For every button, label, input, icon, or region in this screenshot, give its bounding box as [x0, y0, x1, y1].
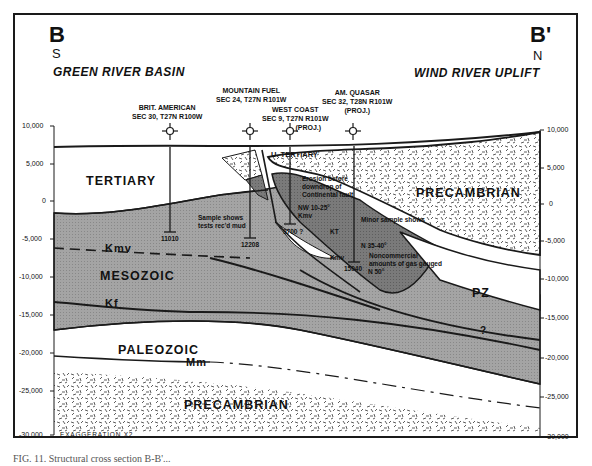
- erosion-note: Erosion before downdrop of Continental f…: [302, 175, 353, 199]
- td-mountain-fuel: 12208: [241, 241, 259, 248]
- dip-note-n50: N 50°: [368, 268, 384, 275]
- right-axis-tick: -15,000: [545, 314, 569, 321]
- right-axis-tick: -10,000: [545, 275, 569, 282]
- well-location: SEC 30, T27N R100W: [132, 112, 202, 121]
- south-direction-label: S: [52, 46, 61, 61]
- pz-label: PZ: [472, 286, 490, 300]
- well-name: AM. QUASAR: [322, 88, 392, 97]
- left-axis-tick: 10,000: [22, 122, 43, 129]
- figure-caption: FIG. 11. Structural cross section B-B'..…: [13, 453, 171, 464]
- right-axis-tick: 10,000: [547, 126, 568, 133]
- exaggeration-note: EXAGGERATION X2: [60, 431, 133, 438]
- precambrian-lower-label: PRECAMBRIAN: [184, 398, 289, 412]
- well-name: WEST COAST: [262, 105, 329, 114]
- well-note: (PROJ.): [322, 106, 392, 115]
- left-axis-tick: -10,000: [19, 273, 43, 280]
- left-axis-tick: -5,000: [22, 235, 42, 242]
- section-start-label: B: [49, 22, 65, 48]
- kmv-horizon-label: Kmv: [105, 242, 132, 254]
- right-axis-tick: -20,000: [545, 354, 569, 361]
- td-west-coast: 9700 ?: [283, 228, 303, 235]
- right-axis-tick: -30,000: [545, 433, 569, 440]
- kmv-small-label-2: Kmv: [298, 212, 312, 219]
- section-end-label: B': [530, 22, 551, 48]
- kf-horizon-label: Kf: [105, 297, 119, 309]
- left-axis-tick: -20,000: [19, 349, 43, 356]
- well-name: MOUNTAIN FUEL: [216, 86, 286, 95]
- minor-shows-note: Minor sample shows: [361, 216, 425, 223]
- left-axis-tick: -30,000: [19, 431, 43, 438]
- dip-note-nw: NW 10-25°: [298, 204, 330, 211]
- right-axis-tick: -25,000: [545, 393, 569, 400]
- td-am-quasar: 15040: [344, 265, 362, 272]
- dip-note-n35: N 35-40°: [361, 242, 387, 249]
- right-axis-tick: 0: [549, 200, 553, 207]
- well-brit-american: BRIT. AMERICAN SEC 30, T27N R100W: [132, 103, 202, 121]
- wind-river-uplift-label: WIND RIVER UPLIFT: [414, 66, 540, 80]
- green-river-basin-label: GREEN RIVER BASIN: [53, 65, 185, 79]
- tertiary-label: TERTIARY: [86, 174, 156, 188]
- mesozoic-label: MESOZOIC: [100, 269, 175, 283]
- tests-note: tests rec'd mud: [198, 222, 246, 229]
- td-brit-american: 11010: [161, 235, 179, 242]
- kt-label: KT: [330, 228, 339, 235]
- well-location: SEC 24, T27N R101W: [216, 95, 286, 104]
- paleozoic-label: PALEOZOIC: [118, 343, 199, 357]
- noncommercial-gas-note: Noncommercial amounts of gas gauged: [369, 252, 442, 268]
- kmv-small-label: Kmv: [330, 254, 344, 261]
- right-axis-tick: -5,000: [545, 237, 565, 244]
- u-tertiary-label: U. TERTIARY: [271, 150, 318, 159]
- left-axis-tick: 5,000: [26, 160, 44, 167]
- well-mountain-fuel: MOUNTAIN FUEL SEC 24, T27N R101W: [216, 86, 286, 104]
- well-location: SEC 32, T28N R101W: [322, 97, 392, 106]
- well-name: BRIT. AMERICAN: [132, 103, 202, 112]
- query-label: ?: [480, 325, 487, 336]
- sample-shows-note: Sample shows: [198, 214, 243, 221]
- left-axis-tick: -15,000: [19, 311, 43, 318]
- north-direction-label: N: [533, 48, 542, 63]
- left-axis-tick: 0: [42, 197, 46, 204]
- right-axis-tick: 5,000: [547, 164, 565, 171]
- well-location: SEC 9, T27N R101W: [262, 114, 329, 123]
- precambrian-upper-label: PRECAMBRIAN: [416, 186, 521, 200]
- left-axis-tick: -25,000: [19, 387, 43, 394]
- mm-horizon-label: Mm: [186, 356, 207, 368]
- well-west-coast: WEST COAST SEC 9, T27N R101W (PROJ.): [262, 105, 329, 132]
- well-note: (PROJ.): [262, 123, 329, 132]
- well-am-quasar: AM. QUASAR SEC 32, T28N R101W (PROJ.): [322, 88, 392, 115]
